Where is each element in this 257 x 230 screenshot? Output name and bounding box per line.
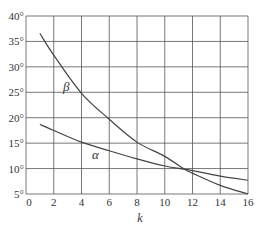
x-tick-label: 16 <box>243 196 255 208</box>
beta-curve <box>40 33 248 194</box>
x-tick-label: 14 <box>215 196 227 208</box>
y-tick-label: 15° <box>9 137 24 149</box>
y-axis-ticks: 5°10°15°20°25°30°35°40° <box>9 10 24 200</box>
y-tick-label: 20° <box>9 112 24 124</box>
y-tick-label: 5° <box>14 188 24 200</box>
alpha-curve <box>40 124 248 180</box>
y-tick-label: 40° <box>9 10 24 22</box>
y-tick-label: 25° <box>9 86 24 98</box>
x-tick-label: 2 <box>51 196 57 208</box>
x-axis-label: k <box>137 211 143 225</box>
chart: 5°10°15°20°25°30°35°40° 0246810121416 β … <box>0 0 257 230</box>
x-tick-label: 10 <box>159 196 171 208</box>
x-axis-ticks: 0246810121416 <box>26 196 254 208</box>
grid <box>26 16 248 194</box>
alpha-curve-label: α <box>92 147 100 162</box>
x-tick-label: 12 <box>187 196 198 208</box>
beta-curve-label: β <box>62 79 70 94</box>
y-tick-label: 10° <box>9 163 24 175</box>
y-tick-label: 35° <box>9 35 24 47</box>
y-tick-label: 30° <box>9 61 24 73</box>
curves <box>40 33 248 194</box>
x-tick-label: 8 <box>134 196 140 208</box>
x-tick-label: 0 <box>26 196 32 208</box>
x-tick-label: 6 <box>107 196 113 208</box>
x-tick-label: 4 <box>79 196 85 208</box>
